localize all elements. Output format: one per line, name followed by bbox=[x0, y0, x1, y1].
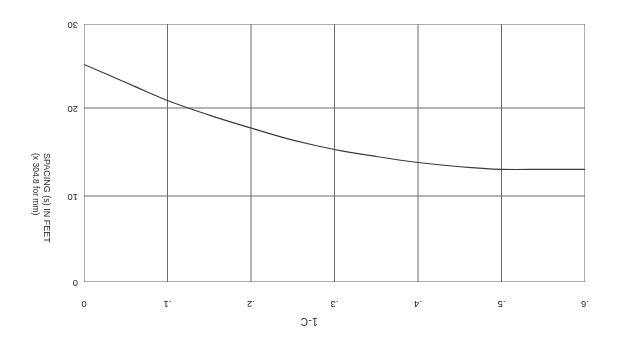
x-tick-label-2: .4 bbox=[398, 299, 438, 310]
figure-title: 1-C bbox=[0, 316, 618, 327]
x-tick-label-5: .1 bbox=[148, 299, 188, 310]
y-tick-label-1: 10 bbox=[52, 192, 78, 203]
scanned-chart-sheet: 1-C .6 .5 .4 .3 .2 .1 0 0 10 20 30 SPACI… bbox=[0, 0, 618, 341]
y-tick-label-3: 30 bbox=[52, 20, 78, 31]
y-axis-caption-line1: SPACING (s) IN FEET bbox=[41, 153, 52, 341]
x-tick-label-6: 0 bbox=[64, 299, 104, 310]
y-axis-caption-line2: (x 304.8 for mm) bbox=[30, 153, 41, 341]
y-tick-label-0: 0 bbox=[52, 278, 78, 289]
x-tick-label-1: .5 bbox=[482, 299, 522, 310]
x-tick-label-0: .6 bbox=[565, 299, 605, 310]
y-axis-caption: SPACING (s) IN FEET (x 304.8 for mm) bbox=[30, 153, 52, 341]
plot-area bbox=[84, 24, 585, 282]
x-tick-label-3: .3 bbox=[315, 299, 355, 310]
x-tick-label-4: .2 bbox=[231, 299, 271, 310]
vertical-gridlines bbox=[84, 24, 585, 282]
chart-svg bbox=[84, 24, 585, 282]
y-tick-label-2: 20 bbox=[52, 104, 78, 115]
